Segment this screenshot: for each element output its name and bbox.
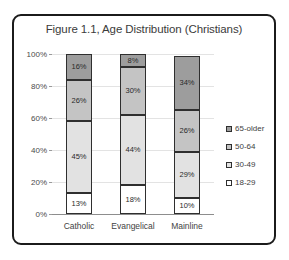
bar-segment[interactable]: 44% [120, 115, 146, 185]
legend-swatch-icon [226, 126, 232, 132]
bar-segment[interactable]: 29% [174, 152, 200, 198]
legend-item[interactable]: 18-29 [226, 178, 286, 187]
legend-label: 50-64 [235, 142, 255, 151]
bar-segment[interactable]: 30% [120, 67, 146, 115]
stacked-bar[interactable]: 18%44%30%8% [120, 54, 146, 214]
legend-swatch-icon [226, 162, 232, 168]
y-tick-label: 0% [35, 210, 47, 219]
bar-value-label: 44% [125, 146, 140, 154]
legend-label: 18-29 [235, 178, 255, 187]
bar-value-label: 18% [125, 196, 140, 204]
y-tick-mark [49, 118, 52, 119]
bar-value-label: 29% [179, 171, 194, 179]
legend-swatch-icon [226, 180, 232, 186]
y-tick-label: 60% [31, 114, 47, 123]
legend-item[interactable]: 30-49 [226, 160, 286, 169]
chart-legend: 65-older50-6430-4918-29 [226, 124, 286, 196]
legend-item[interactable]: 65-older [226, 124, 286, 133]
legend-label: 65-older [235, 124, 264, 133]
category-label: Catholic [64, 221, 95, 231]
y-tick-label: 20% [31, 178, 47, 187]
x-axis-line [52, 214, 214, 215]
bar-group[interactable]: 13%45%26%16%Catholic [66, 54, 92, 214]
bar-segment[interactable]: 26% [174, 110, 200, 152]
y-tick-label: 100% [27, 50, 47, 59]
bar-group[interactable]: 18%44%30%8%Evangelical [120, 54, 146, 214]
bar-segment[interactable]: 8% [120, 54, 146, 67]
chart-title: Figure 1.1, Age Distribution (Christians… [14, 23, 274, 35]
bar-value-label: 34% [179, 79, 194, 87]
bar-segment[interactable]: 45% [66, 121, 92, 193]
bar-value-label: 26% [179, 127, 194, 135]
chart-frame: Figure 1.1, Age Distribution (Christians… [12, 14, 276, 245]
y-tick-label: 80% [31, 82, 47, 91]
bar-value-label: 16% [71, 63, 86, 71]
bar-value-label: 8% [128, 57, 139, 65]
bar-value-label: 10% [179, 202, 194, 210]
bar-value-label: 26% [71, 97, 86, 105]
bar-value-label: 45% [71, 153, 86, 161]
bar-segment[interactable]: 16% [66, 54, 92, 80]
y-tick-label: 40% [31, 146, 47, 155]
plot-area: 0%20%40%60%80%100% 13%45%26%16%Catholic1… [52, 54, 214, 214]
legend-swatch-icon [226, 144, 232, 150]
y-tick-mark [49, 150, 52, 151]
bar-segment[interactable]: 13% [66, 193, 92, 214]
legend-label: 30-49 [235, 160, 255, 169]
legend-item[interactable]: 50-64 [226, 142, 286, 151]
bar-value-label: 13% [71, 200, 86, 208]
stacked-bar[interactable]: 13%45%26%16% [66, 54, 92, 214]
bar-segment[interactable]: 34% [174, 56, 200, 110]
chart-area: Figure 1.1, Age Distribution (Christians… [14, 16, 274, 243]
bar-segment[interactable]: 18% [120, 185, 146, 214]
bar-segment[interactable]: 10% [174, 198, 200, 214]
y-tick-mark [49, 182, 52, 183]
category-label: Evangelical [111, 221, 154, 231]
y-tick-mark [49, 54, 52, 55]
bar-segment[interactable]: 26% [66, 80, 92, 122]
category-label: Mainline [171, 221, 203, 231]
bar-value-label: 30% [125, 87, 140, 95]
y-tick-mark [49, 86, 52, 87]
stacked-bar[interactable]: 10%29%26%34% [174, 54, 200, 214]
bar-group[interactable]: 10%29%26%34%Mainline [174, 54, 200, 214]
